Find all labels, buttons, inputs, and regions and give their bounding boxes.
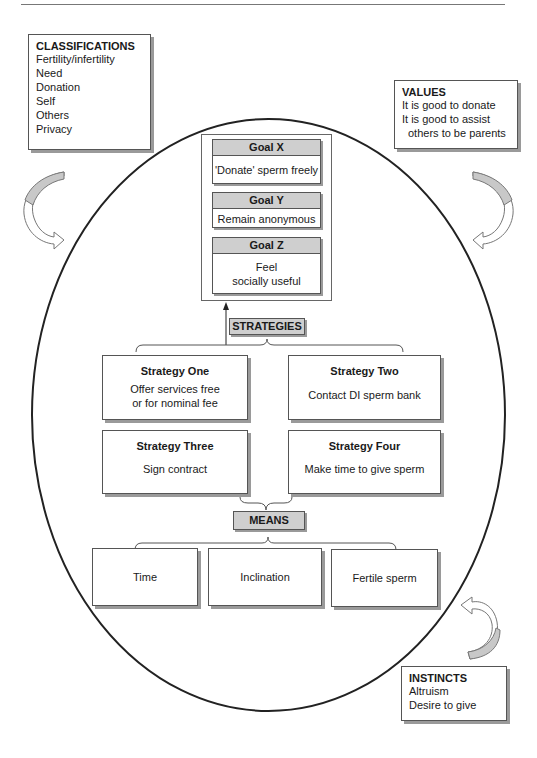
strategy-three-text: Sign contract — [103, 462, 247, 476]
means-time-box: Time — [92, 548, 198, 606]
curved-arrow-right-icon — [473, 172, 513, 249]
value-item: others to be parents — [402, 126, 510, 140]
strategies-brace — [136, 339, 403, 352]
curved-arrow-instincts-icon — [461, 597, 500, 659]
strategy-two-title: Strategy Two — [289, 365, 440, 377]
means-label: MEANS — [233, 511, 305, 530]
means-time-text: Time — [133, 571, 157, 583]
strategy-two-text: Contact DI sperm bank — [289, 388, 440, 402]
instinct-item: Altruism — [409, 684, 499, 698]
instinct-item: Desire to give — [409, 698, 499, 712]
strategies-label: STRATEGIES — [229, 318, 305, 335]
instincts-box: INSTINCTS Altruism Desire to give — [401, 666, 507, 721]
goal-z-title: Goal Z — [213, 238, 320, 254]
goal-y-text: Remain anonymous — [213, 212, 320, 226]
means-brace-top — [240, 497, 292, 510]
values-box: VALUES It is good to donate It is good t… — [394, 80, 518, 149]
strategy-one-text: or for nominal fee — [103, 396, 247, 410]
means-fertile-sperm-box: Fertile sperm — [331, 549, 438, 607]
goals-container: Goal X 'Donate' sperm freely Goal Y Rema… — [201, 134, 332, 301]
strategy-three-box: Strategy Three Sign contract — [102, 430, 248, 494]
classification-item: Donation — [36, 80, 143, 94]
values-title: VALUES — [402, 86, 510, 98]
classifications-title: CLASSIFICATIONS — [36, 40, 143, 52]
goal-y-box: Goal Y Remain anonymous — [212, 192, 321, 228]
value-item: It is good to assist — [402, 112, 510, 126]
means-fertile-sperm-text: Fertile sperm — [352, 572, 416, 584]
strategy-four-text: Make time to give sperm — [289, 462, 440, 476]
classifications-box: CLASSIFICATIONS Fertility/infertility Ne… — [28, 34, 151, 150]
classification-item: Need — [36, 66, 143, 80]
strategy-two-box: Strategy Two Contact DI sperm bank — [288, 355, 441, 420]
means-inclination-text: Inclination — [240, 571, 290, 583]
classification-item: Privacy — [36, 122, 143, 136]
goal-z-box: Goal Z Feel socially useful — [212, 237, 321, 294]
instincts-title: INSTINCTS — [409, 672, 499, 684]
goal-z-text: Feel — [213, 260, 320, 274]
classification-item: Self — [36, 94, 143, 108]
strategy-four-box: Strategy Four Make time to give sperm — [288, 430, 441, 494]
classification-item: Fertility/infertility — [36, 52, 143, 66]
strategy-one-box: Strategy One Offer services free or for … — [102, 355, 248, 420]
goal-x-title: Goal X — [213, 140, 320, 156]
goal-x-text: 'Donate' sperm freely — [213, 163, 320, 177]
curved-arrow-left-icon — [24, 172, 64, 249]
strategy-four-title: Strategy Four — [289, 440, 440, 452]
classification-item: Others — [36, 108, 143, 122]
goal-y-title: Goal Y — [213, 193, 320, 209]
value-item: It is good to donate — [402, 98, 510, 112]
strategy-one-text: Offer services free — [103, 382, 247, 396]
strategy-one-title: Strategy One — [103, 365, 247, 377]
goal-x-box: Goal X 'Donate' sperm freely — [212, 139, 321, 184]
strategy-three-title: Strategy Three — [103, 440, 247, 452]
means-inclination-box: Inclination — [208, 548, 322, 606]
goal-z-text: socially useful — [213, 274, 320, 288]
